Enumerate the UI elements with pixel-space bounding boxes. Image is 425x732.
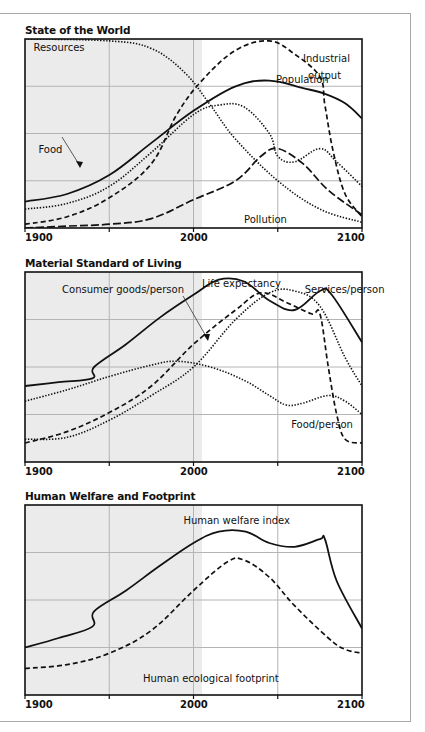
- label-human-welfare-index: Human welfare index: [183, 515, 290, 526]
- x-tick-1900: 1900: [25, 699, 53, 710]
- human-welfare-chart: Human welfare indexHuman ecological foot…: [0, 0, 425, 700]
- x-tick-2100: 2100: [337, 699, 365, 710]
- label-human-ecological-footprint: Human ecological footprint: [143, 673, 279, 684]
- x-tick-2000: 2000: [180, 699, 208, 710]
